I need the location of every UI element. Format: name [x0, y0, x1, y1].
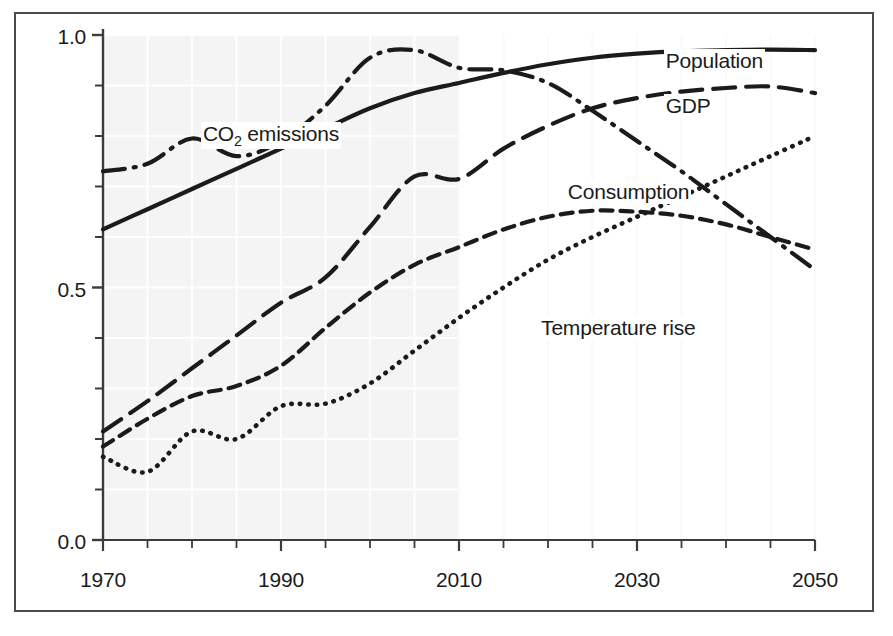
series-label-gdp: GDP	[664, 94, 713, 118]
xtick-label-1990: 1990	[241, 568, 321, 592]
xtick-label-2050: 2050	[775, 568, 855, 592]
co2-subscript: 2	[234, 133, 242, 149]
xtick-label-1970: 1970	[63, 568, 143, 592]
ytick-label-0: 0.0	[26, 530, 86, 554]
xtick-label-2010: 2010	[419, 568, 499, 592]
xtick-label-2030: 2030	[597, 568, 677, 592]
series-label-co2-emissions: CO2 emissions	[201, 122, 341, 149]
figure-container: 1.0 0.5 0.0 1970 1990 2010 2030 2050 Pop…	[0, 0, 893, 636]
series-label-temperature-rise: Temperature rise	[539, 316, 697, 340]
ytick-label-0.5: 0.5	[26, 278, 86, 302]
ytick-label-1: 1.0	[26, 25, 86, 49]
chart-plot-area	[0, 0, 893, 636]
series-label-consumption: Consumption	[566, 180, 692, 204]
series-label-population: Population	[664, 49, 765, 73]
